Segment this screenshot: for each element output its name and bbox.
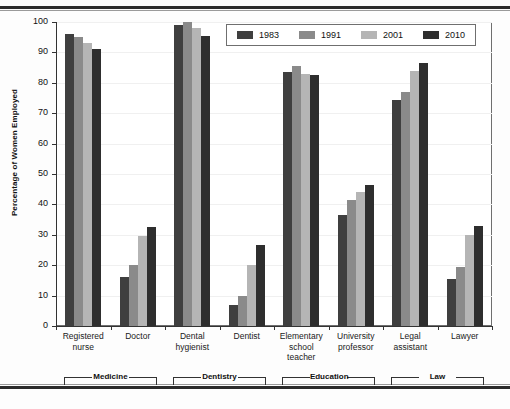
bracket-line-left [282,377,310,378]
category-label-line: nurse [56,342,111,353]
bracket-line-left [391,377,419,378]
y-axis-tick-label: 90 [22,47,48,56]
y-axis-tick-label: 60 [22,139,48,148]
x-axis-tick [56,326,57,330]
y-axis-tick-label: 50 [22,169,48,178]
bar [419,63,428,326]
bar-group [338,22,374,326]
category-label-line: hygienist [165,342,220,353]
bar-group [120,22,156,326]
category-label-line: Registered [56,331,111,342]
bracket-cap-right [483,377,484,385]
bar [410,71,419,326]
bar-group [392,22,428,326]
category-label: Lawyer [438,331,493,342]
category-label: Dentalhygienist [165,331,220,352]
category-label-line: University [329,331,384,342]
x-axis-tick [383,326,384,330]
bar [465,235,474,326]
bracket-label: Dentistry [201,372,238,381]
category-label-line: assistant [383,342,438,353]
bracket-label: Education [310,372,347,381]
bar [192,28,201,326]
y-axis-tick [52,22,56,23]
bar [92,49,101,326]
bracket-cap-left [391,377,392,385]
bar-group [229,22,265,326]
category-label-line: professor [329,342,384,353]
y-axis-tick-label: 20 [22,260,48,269]
category-label-line: school [274,342,329,353]
category-label: Doctor [111,331,166,342]
bracket-cap-right [156,377,157,385]
bracket-label: Law [419,372,456,381]
legend-label: 1983 [259,30,279,40]
bar [292,66,301,326]
bar [247,265,256,326]
bar [347,200,356,326]
bracket-line-left [64,377,92,378]
bar [183,22,192,326]
bar [174,25,183,326]
bar [147,227,156,326]
legend-item[interactable]: 1983 [227,30,289,40]
legend-swatch-icon [237,31,253,39]
legend-swatch-icon [423,31,439,39]
bracket-cap-left [173,377,174,385]
y-axis-labels: 0102030405060708090100 [18,0,48,409]
plot-area [56,22,492,326]
bar [129,265,138,326]
bar [138,236,147,326]
legend-item[interactable]: 1991 [289,30,351,40]
chart-page: Percentage of Women Employed 01020304050… [0,0,510,409]
legend-label: 2001 [383,30,403,40]
legend-label: 1991 [321,30,341,40]
group-brackets: MedicineDentistryEducationLaw [56,371,492,393]
bracket-label: Medicine [92,372,129,381]
y-axis-tick [52,52,56,53]
page-rule-top [0,6,510,9]
category-label: Legalassistant [383,331,438,352]
category-label-line: Lawyer [438,331,493,342]
y-axis-tick-label: 100 [22,17,48,26]
x-axis-tick [165,326,166,330]
bracket-cap-right [374,377,375,385]
x-axis-tick [220,326,221,330]
x-axis-tick [492,326,493,330]
legend-swatch-icon [299,31,315,39]
bar [283,72,292,326]
bar [201,36,210,326]
legend-item[interactable]: 2001 [351,30,413,40]
legend-item[interactable]: 2010 [413,30,475,40]
bar [474,226,483,326]
category-label-line: Dental [165,331,220,342]
page-rule-top-thin [0,10,510,11]
y-axis-tick-label: 80 [22,78,48,87]
bar [356,192,365,326]
bar [456,267,465,326]
x-axis-tick [111,326,112,330]
y-axis-tick-label: 70 [22,108,48,117]
bracket-line-right [347,377,375,378]
group-bracket: Law [391,377,484,387]
bar [365,185,374,326]
x-axis-tick [329,326,330,330]
category-labels: RegisterednurseDoctorDentalhygienistDent… [56,331,492,373]
bar-group [447,22,483,326]
y-axis-tick-label: 10 [22,291,48,300]
bar [392,100,401,326]
category-label-line: Doctor [111,331,166,342]
y-axis-tick [52,113,56,114]
bar-group [174,22,210,326]
y-axis-tick [52,83,56,84]
bar [120,277,129,326]
group-bracket: Medicine [64,377,157,387]
bar [83,43,92,326]
bracket-cap-right [265,377,266,385]
category-label-line: Dentist [220,331,275,342]
category-label: Universityprofessor [329,331,384,352]
bracket-line-right [238,377,266,378]
category-label-line: teacher [274,352,329,363]
group-bracket: Dentistry [173,377,266,387]
x-axis-tick [274,326,275,330]
